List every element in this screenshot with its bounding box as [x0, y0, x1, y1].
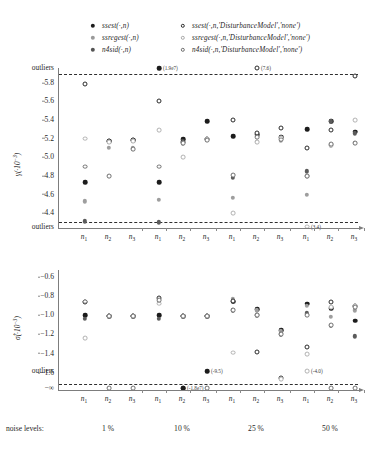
- y-axis-tick-label: −1.2: [40, 331, 59, 339]
- data-point: [255, 134, 260, 139]
- data-point: [305, 352, 310, 357]
- y-axis-tick-mark: [42, 175, 45, 176]
- data-point: [255, 349, 260, 354]
- legend-item: ssregest(·,n,'DisturbanceModel','none'): [178, 32, 310, 44]
- x-axis-tick: [338, 390, 339, 393]
- y-axis-tick-mark: [42, 101, 45, 102]
- noise-level-group-label: 1 %: [102, 424, 114, 433]
- y-axis-tick-label: −1.0: [40, 311, 59, 319]
- data-point: [231, 173, 236, 178]
- y-axis-tick-label: 4.6: [45, 191, 60, 199]
- legend-item-label: ssregest(·,n): [102, 32, 139, 44]
- y-axis-tick-mark: [42, 138, 45, 139]
- data-point: [305, 174, 310, 179]
- x-axis-tick: [142, 228, 143, 231]
- data-point: [353, 140, 358, 145]
- x-axis-tick-label: n3: [203, 394, 209, 404]
- data-point: [305, 313, 310, 318]
- y-axis-label-sigma: σ̂(·10−3): [12, 316, 22, 340]
- x-axis-gamma: [58, 228, 360, 229]
- x-axis-tick-label: n1: [303, 232, 309, 242]
- data-point: [131, 147, 136, 152]
- x-axis-tick: [190, 228, 191, 231]
- data-point: [255, 313, 260, 318]
- data-point: [279, 137, 284, 142]
- y-axis-tick-mark: [38, 276, 41, 277]
- legend-item: ssregest(·,n): [88, 32, 139, 44]
- data-point: [329, 315, 333, 319]
- noise-level-group-label: 10 %: [174, 424, 190, 433]
- outlier-annotation: (-4.0): [307, 368, 323, 374]
- data-point: [83, 317, 87, 321]
- x-axis-sigma: [58, 390, 360, 391]
- data-point: [353, 131, 357, 135]
- y-axis-tick-mark: [42, 194, 45, 195]
- legend-item-label: n4sid(·,n): [102, 44, 131, 56]
- legend-marker-open-mid-icon: [178, 34, 187, 43]
- x-axis-tick-label: n3: [129, 394, 135, 404]
- y-axis-outlier-label: outliers: [32, 367, 59, 374]
- legend-item-label: ssest(·,n): [102, 20, 129, 32]
- outlier-annotation: (1.9e7): [159, 65, 178, 71]
- y-axis-tick-label: −0.8: [40, 292, 59, 300]
- x-axis-tick-label: n2: [179, 394, 185, 404]
- x-axis-tick: [240, 228, 241, 231]
- data-point: [107, 314, 112, 319]
- legend-marker-filled-mid-icon: [88, 34, 97, 43]
- data-point: [157, 99, 162, 104]
- data-point: [131, 314, 136, 319]
- legend-column-left: ssest(·,n) ssregest(·,n) n4sid(·,n): [88, 20, 139, 56]
- x-axis-tick-label: n2: [105, 394, 111, 404]
- x-axis-tick: [290, 228, 291, 231]
- y-axis-tick-mark: [42, 120, 45, 121]
- x-axis-tick: [314, 228, 315, 231]
- data-point: [329, 299, 334, 304]
- data-point: [329, 128, 334, 133]
- legend-marker-filled-med-icon: [88, 46, 97, 55]
- x-axis-tick-label: n3: [277, 394, 283, 404]
- x-axis-tick-label: n2: [327, 232, 333, 242]
- x-axis-tick-label: n1: [303, 394, 309, 404]
- data-point: [329, 305, 334, 310]
- x-axis-tick-label: n3: [277, 232, 283, 242]
- x-axis-tick: [190, 390, 191, 393]
- data-point: [157, 297, 162, 302]
- x-axis-tick: [290, 390, 291, 393]
- legend-marker-open-med-icon: [178, 46, 187, 55]
- outlier-annotation: (-9.5): [207, 368, 223, 374]
- legend-item: ssest(·,n,'DisturbanceModel','none'): [178, 20, 310, 32]
- y-axis-tick-label: 5.8: [45, 79, 60, 87]
- x-axis-tick: [364, 390, 365, 393]
- x-axis-tick-label: n3: [351, 232, 357, 242]
- y-axis-tick-mark: [38, 295, 41, 296]
- data-point: [329, 142, 334, 147]
- data-point: [353, 305, 358, 310]
- data-point: [231, 196, 235, 200]
- x-axis-tick-label: n1: [155, 394, 161, 404]
- data-point: [181, 155, 186, 160]
- plot-area-gamma: 5.85.65.45.25.04.84.64.4outliersoutliers…: [58, 68, 358, 228]
- y-axis-tick-mark: [38, 334, 41, 335]
- data-point: [205, 314, 210, 319]
- data-point: [205, 138, 210, 143]
- x-axis-tick-label: n1: [81, 232, 87, 242]
- legend-item-label: ssest(·,n,'DisturbanceModel','none'): [192, 20, 300, 32]
- x-axis-tick-label: n3: [203, 232, 209, 242]
- x-axis-tick-label: n3: [351, 394, 357, 404]
- x-axis-tick-label: n2: [179, 232, 185, 242]
- x-axis-tick-label: n2: [253, 232, 259, 242]
- x-axis-tick: [264, 228, 265, 231]
- chart-panel-sigma: σ̂(·10−3) −0.6−0.8−1.0−1.2−1.4−1.6outlie…: [0, 262, 368, 410]
- data-point: [157, 164, 162, 169]
- legend-item: ssest(·,n): [88, 20, 139, 32]
- data-point: [279, 126, 284, 131]
- x-axis-tick-label: n3: [129, 232, 135, 242]
- data-point: [231, 211, 236, 216]
- figure-root: ssest(·,n) ssregest(·,n) n4sid(·,n) sses…: [0, 0, 368, 451]
- chart-legend: ssest(·,n) ssregest(·,n) n4sid(·,n) sses…: [0, 20, 368, 56]
- data-point: [107, 174, 112, 179]
- data-point: [83, 199, 87, 203]
- data-point: [279, 332, 284, 337]
- data-point: [157, 180, 162, 185]
- y-axis-tick-label: 5.6: [45, 98, 60, 106]
